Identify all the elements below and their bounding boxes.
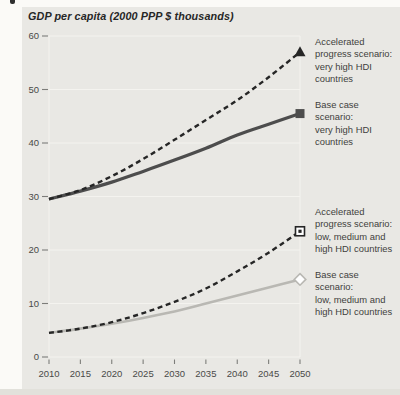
marker-diamond-open (294, 274, 306, 286)
legend-accelerated-very-high: Accelerated progress scenario: very high… (315, 36, 399, 86)
x-tick-label: 2050 (289, 368, 310, 379)
chart-title: GDP per capita (2000 PPP $ thousands) (28, 10, 234, 22)
y-tick-label: 30 (28, 191, 39, 202)
x-tick-label: 2035 (195, 368, 216, 379)
y-tick-label: 10 (28, 298, 39, 309)
figure: 0102030405060201020152020202520302035204… (0, 0, 400, 395)
marker-square-filled (296, 109, 305, 118)
y-tick-label: 50 (28, 84, 39, 95)
x-tick-label: 2040 (227, 368, 248, 379)
legend-base-very-high: Base case scenario: very high HDI countr… (315, 99, 399, 149)
marker-square-dot (298, 230, 301, 233)
x-tick-label: 2045 (258, 368, 279, 379)
y-tick-label: 40 (28, 137, 39, 148)
series-line-2 (49, 231, 300, 333)
x-tick-label: 2015 (70, 368, 91, 379)
legend-accelerated-low-med-high: Accelerated progress scenario: low, medi… (315, 206, 399, 256)
x-tick-label: 2025 (133, 368, 154, 379)
y-tick-label: 0 (34, 351, 39, 362)
x-tick-label: 2030 (164, 368, 185, 379)
series-line-3 (49, 279, 300, 333)
x-tick-label: 2010 (38, 368, 59, 379)
x-tick-label: 2020 (101, 368, 122, 379)
legend-base-low-med-high: Base case scenario: low, medium and high… (315, 269, 399, 319)
series-line-1 (49, 114, 300, 200)
y-tick-label: 60 (28, 30, 39, 41)
y-tick-label: 20 (28, 244, 39, 255)
marker-triangle-filled (295, 46, 306, 56)
